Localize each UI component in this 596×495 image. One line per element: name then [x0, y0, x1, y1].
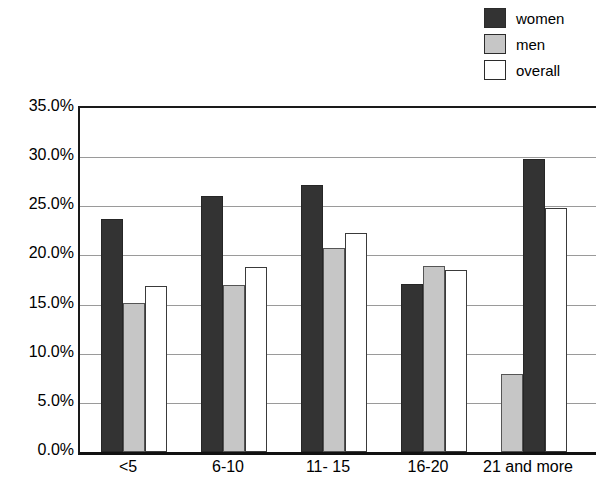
bar-women [301, 185, 323, 452]
legend-label-overall: overall [516, 63, 560, 78]
x-axis-tick-labels: <56-1011- 1516-2021 and more [78, 459, 594, 489]
bar-women [201, 196, 223, 452]
y-tick-label: 0.0% [2, 442, 74, 458]
bar-group [180, 108, 280, 452]
legend-swatch-overall-icon [484, 60, 506, 80]
bar-men [423, 266, 445, 452]
legend-swatch-men-icon [484, 34, 506, 54]
bar-overall [245, 267, 267, 452]
bar-overall [445, 270, 467, 452]
x-tick-label: 11- 15 [278, 459, 378, 475]
bar-group [280, 108, 380, 452]
legend-swatch-women-icon [484, 8, 506, 28]
bar-groups [80, 108, 596, 452]
legend-item-men: men [484, 31, 594, 57]
y-axis-tick-labels: 0.0%5.0%10.0%15.0%20.0%25.0%30.0%35.0% [0, 106, 74, 450]
y-tick-label: 20.0% [2, 245, 74, 261]
bar-women [401, 284, 423, 452]
bar-group [80, 108, 180, 452]
x-tick-label: <5 [78, 459, 178, 475]
chart-legend: women men overall [484, 5, 594, 83]
bar-group [480, 108, 580, 452]
y-tick-label: 5.0% [2, 393, 74, 409]
bar-men [323, 248, 345, 452]
plot-area [78, 106, 596, 455]
bar-men [223, 285, 245, 452]
y-tick-label: 25.0% [2, 196, 74, 212]
y-tick-label: 10.0% [2, 344, 74, 360]
legend-label-women: women [516, 11, 564, 26]
x-tick-label: 21 and more [478, 459, 578, 475]
legend-item-overall: overall [484, 57, 594, 83]
legend-label-men: men [516, 37, 545, 52]
bar-group [380, 108, 480, 452]
x-tick-label: 6-10 [178, 459, 278, 475]
legend-item-women: women [484, 5, 594, 31]
y-tick-label: 35.0% [2, 98, 74, 114]
bar-men [501, 374, 523, 452]
bar-men [123, 303, 145, 452]
y-tick-label: 15.0% [2, 295, 74, 311]
bar-overall [145, 286, 167, 452]
bar-overall [545, 208, 567, 452]
bar-overall [345, 233, 367, 452]
bar-women [101, 219, 123, 452]
x-tick-label: 16-20 [378, 459, 478, 475]
bar-women [523, 159, 545, 452]
y-tick-label: 30.0% [2, 147, 74, 163]
